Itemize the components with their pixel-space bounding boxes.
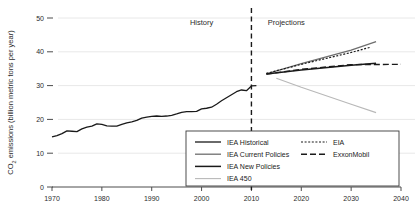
legend-label-iea_current_policies: IEA Current Policies	[227, 151, 290, 158]
xtick-label-1970: 1970	[44, 195, 60, 202]
chart-container: 0102030405019701980199020002010202020302…	[0, 0, 417, 222]
series-line-eia	[266, 47, 371, 73]
xtick-label-2000: 2000	[194, 195, 210, 202]
ytick-label-50: 50	[36, 15, 44, 22]
ytick-label-40: 40	[36, 48, 44, 55]
legend-label-iea_historical: IEA Historical	[227, 139, 269, 146]
series-line-exxonmobil	[266, 64, 401, 74]
legend-label-iea_450: IEA 450	[227, 175, 252, 182]
xtick-label-2010: 2010	[244, 195, 260, 202]
projections-label: Projections	[268, 18, 305, 27]
y-axis-title: CO2 emissions (billion metric tons per y…	[6, 30, 17, 175]
ytick-label-10: 10	[36, 150, 44, 157]
ytick-label-20: 20	[36, 116, 44, 123]
co2-emissions-line-chart: 0102030405019701980199020002010202020302…	[0, 0, 417, 222]
series-line-iea_current_policies	[266, 42, 376, 74]
ytick-label-0: 0	[40, 184, 44, 191]
history-label: History	[190, 18, 214, 27]
ytick-label-30: 30	[36, 82, 44, 89]
xtick-label-1980: 1980	[94, 195, 110, 202]
legend-label-exxonmobil: ExxonMobil	[333, 151, 370, 158]
xtick-label-2040: 2040	[393, 195, 409, 202]
legend-label-iea_new_policies: IEA New Policies	[227, 163, 280, 170]
series-line-iea_450	[276, 78, 376, 112]
legend-label-eia: EIA	[333, 139, 345, 146]
series-line-iea_historical	[52, 86, 256, 137]
xtick-label-2030: 2030	[343, 195, 359, 202]
xtick-label-1990: 1990	[144, 195, 160, 202]
legend-box	[186, 131, 399, 186]
xtick-label-2020: 2020	[293, 195, 309, 202]
